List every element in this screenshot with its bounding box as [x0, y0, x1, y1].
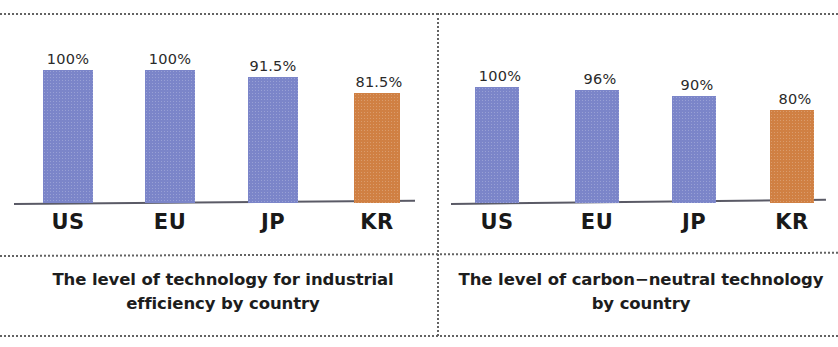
bar-group-kr-left: 81.5%: [354, 43, 400, 203]
bar-us-right[interactable]: [475, 87, 519, 203]
bar-us-left[interactable]: [43, 70, 93, 203]
panel-caption-right: The level of carbon−neutral technology b…: [452, 268, 830, 316]
bar-kr-left[interactable]: [354, 93, 400, 203]
bar-group-jp-left: 91.5%: [248, 43, 298, 203]
figure-bottom-border: [0, 335, 838, 337]
bar-value-kr-right: 80%: [748, 91, 838, 107]
bar-group-us-right: 100%: [475, 43, 519, 203]
bar-value-eu-left: 100%: [123, 51, 217, 67]
category-label-kr-right: KR: [752, 210, 832, 234]
bar-value-kr-left: 81.5%: [332, 74, 426, 90]
bar-eu-right[interactable]: [575, 90, 619, 203]
category-label-eu-right: EU: [557, 210, 637, 234]
panel-caption-left: The level of technology for industrial e…: [28, 268, 418, 316]
bar-group-us-left: 100%: [43, 43, 93, 203]
bar-kr-right[interactable]: [770, 110, 814, 203]
bar-group-eu-right: 96%: [575, 43, 619, 203]
plot-area-right: 100% US 96% EU 90% JP 80% KR: [439, 14, 838, 254]
bar-eu-left[interactable]: [145, 70, 195, 203]
category-label-us-left: US: [28, 210, 108, 234]
chart-figure: 100% US 100% EU 91.5% JP 81.5% KR: [0, 0, 838, 347]
bar-jp-right[interactable]: [672, 96, 716, 203]
category-label-us-right: US: [457, 210, 537, 234]
plot-area-left: 100% US 100% EU 91.5% JP 81.5% KR: [0, 14, 437, 254]
bar-value-jp-right: 90%: [650, 77, 744, 93]
category-label-jp-left: JP: [233, 210, 313, 234]
bar-value-eu-right: 96%: [553, 71, 647, 87]
category-label-jp-right: JP: [654, 210, 734, 234]
bar-value-us-right: 100%: [453, 68, 547, 84]
bar-group-eu-left: 100%: [145, 43, 195, 203]
bar-jp-left[interactable]: [248, 77, 298, 203]
bar-group-kr-right: 80%: [770, 43, 814, 203]
category-label-kr-left: KR: [337, 210, 417, 234]
chart-panel-right: 100% US 96% EU 90% JP 80% KR: [439, 14, 838, 254]
bar-value-us-left: 100%: [21, 51, 115, 67]
category-label-eu-left: EU: [130, 210, 210, 234]
bar-value-jp-left: 91.5%: [226, 58, 320, 74]
chart-panel-left: 100% US 100% EU 91.5% JP 81.5% KR: [0, 14, 437, 254]
bar-group-jp-right: 90%: [672, 43, 716, 203]
